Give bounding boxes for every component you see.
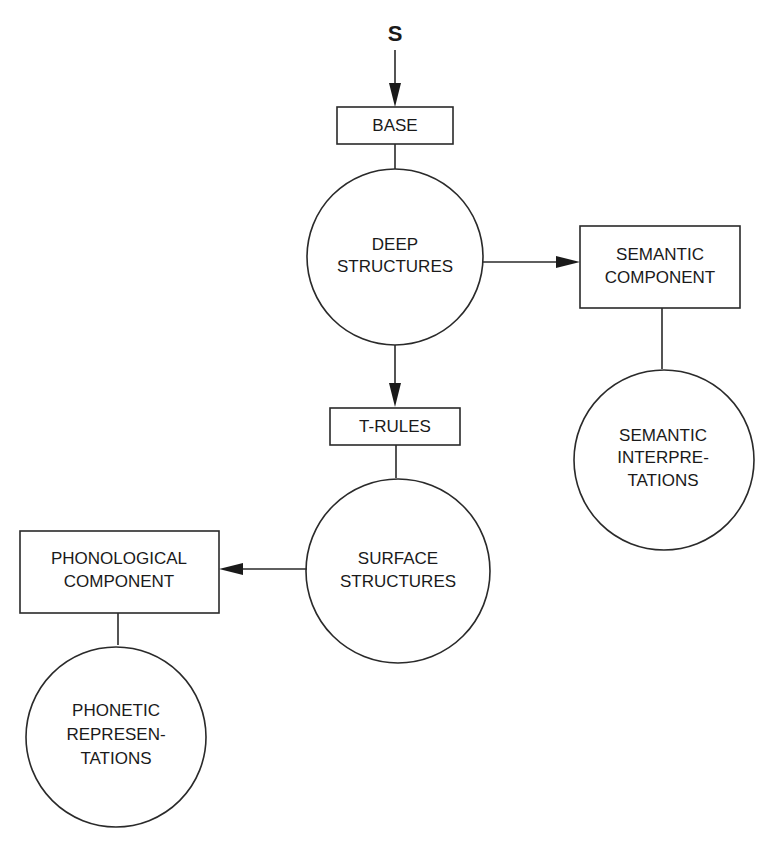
base-label: BASE bbox=[372, 116, 417, 135]
grammar-model-diagram: S BASE DEEP STRUCTURES SEMANTIC COMPONEN… bbox=[0, 0, 770, 850]
surface-structures-node: SURFACE STRUCTURES bbox=[306, 479, 490, 663]
semantic-interpretations-label-line-2: INTERPRE- bbox=[617, 448, 709, 467]
arrowhead-right-icon bbox=[556, 256, 580, 268]
semantic-interpretations-node: SEMANTIC INTERPRE- TATIONS bbox=[574, 370, 754, 550]
phonetic-representations-label-line-1: PHONETIC bbox=[72, 701, 160, 720]
edge-deep-to-semantic-component bbox=[483, 256, 580, 268]
start-symbol-label: S bbox=[388, 21, 403, 46]
deep-structures-label-line-1: DEEP bbox=[372, 235, 418, 254]
semantic-interpretations-label-line-1: SEMANTIC bbox=[619, 426, 707, 445]
arrowhead-down-icon bbox=[389, 383, 401, 407]
phonological-component-node: PHONOLOGICAL COMPONENT bbox=[20, 531, 219, 613]
edge-s-to-base bbox=[389, 50, 401, 107]
arrowhead-down-icon bbox=[389, 83, 401, 107]
semantic-component-label-line-1: SEMANTIC bbox=[616, 245, 704, 264]
phonetic-representations-label-line-2: REPRESEN- bbox=[66, 725, 165, 744]
arrowhead-left-icon bbox=[219, 563, 243, 575]
t-rules-label: T-RULES bbox=[359, 417, 431, 436]
phonetic-representations-node: PHONETIC REPRESEN- TATIONS bbox=[26, 647, 206, 827]
deep-structures-node: DEEP STRUCTURES bbox=[307, 169, 483, 345]
phonetic-representations-label-line-3: TATIONS bbox=[80, 749, 151, 768]
semantic-component-label-line-2: COMPONENT bbox=[605, 268, 716, 287]
edge-surface-to-phonological-component bbox=[219, 563, 307, 575]
edge-deep-to-t-rules bbox=[389, 345, 401, 407]
phonological-component-label-line-2: COMPONENT bbox=[64, 572, 175, 591]
phonological-component-label-line-1: PHONOLOGICAL bbox=[51, 549, 187, 568]
semantic-interpretations-label-line-3: TATIONS bbox=[627, 471, 698, 490]
base-node: BASE bbox=[337, 107, 453, 144]
deep-structures-label-line-2: STRUCTURES bbox=[337, 257, 453, 276]
semantic-component-node: SEMANTIC COMPONENT bbox=[580, 226, 740, 308]
t-rules-node: T-RULES bbox=[330, 408, 460, 445]
surface-structures-label-line-1: SURFACE bbox=[358, 549, 438, 568]
surface-structures-label-line-2: STRUCTURES bbox=[340, 572, 456, 591]
